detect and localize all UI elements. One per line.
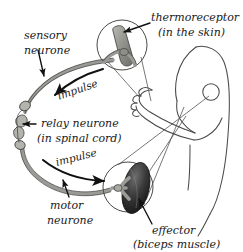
reflex-arc-diagram: sensory neurone relay neurone (in spinal… [0, 0, 243, 252]
torso-outline [196, 46, 229, 214]
thermoreceptor-pointer [124, 23, 150, 32]
thermoreceptor-label-line1: thermoreceptor [151, 11, 240, 24]
effector-leader-a [118, 96, 209, 165]
thermoreceptor-junction [120, 49, 128, 56]
shoulder-outline [176, 47, 197, 101]
motor-endplate-knob [114, 185, 122, 192]
upper-arm-front [177, 101, 195, 133]
effector-pointer [139, 199, 152, 224]
motor-neurone-label-line2: neurone [47, 214, 94, 227]
relay-neurone-label-line2: (in spinal cord) [37, 132, 122, 145]
hip-outline [198, 214, 210, 236]
thermoreceptor-leader-b [141, 57, 151, 101]
relay-neurone-label-line1: relay neurone [41, 117, 119, 130]
waist-contour [188, 145, 190, 190]
thermoreceptor-body [113, 26, 133, 66]
thermoreceptor-leader-a [108, 62, 140, 98]
forearm-bottom [136, 106, 194, 140]
sensory-neurone-label-line1: sensory [24, 29, 68, 42]
thermoreceptor-magnifier [97, 20, 147, 70]
relay-neurone-chain [14, 99, 32, 150]
effector-label-line1: effector [152, 224, 196, 237]
motor-neurone-label-line1: motor [50, 199, 84, 212]
impulse-label-upper: impulse [56, 77, 99, 102]
thermoreceptor-label-line2: (in the skin) [158, 26, 225, 39]
impulse-label-lower: impulse [54, 146, 97, 168]
relay-segment-3 [14, 127, 24, 139]
reflex-arc-illustration: sensory neurone relay neurone (in spinal… [0, 0, 243, 252]
elbow-joint [203, 84, 219, 100]
effector-label-line2: (biceps muscle) [133, 238, 220, 251]
sensory-neurone-label-line2: neurone [24, 44, 71, 57]
upper-arm-back [194, 118, 222, 140]
relay-segment-4 [14, 139, 27, 151]
motor-neurone-pointer [63, 180, 69, 197]
body-outline-group [131, 46, 229, 236]
leader-lines-group [108, 57, 209, 200]
effector-magnifier [103, 160, 155, 217]
